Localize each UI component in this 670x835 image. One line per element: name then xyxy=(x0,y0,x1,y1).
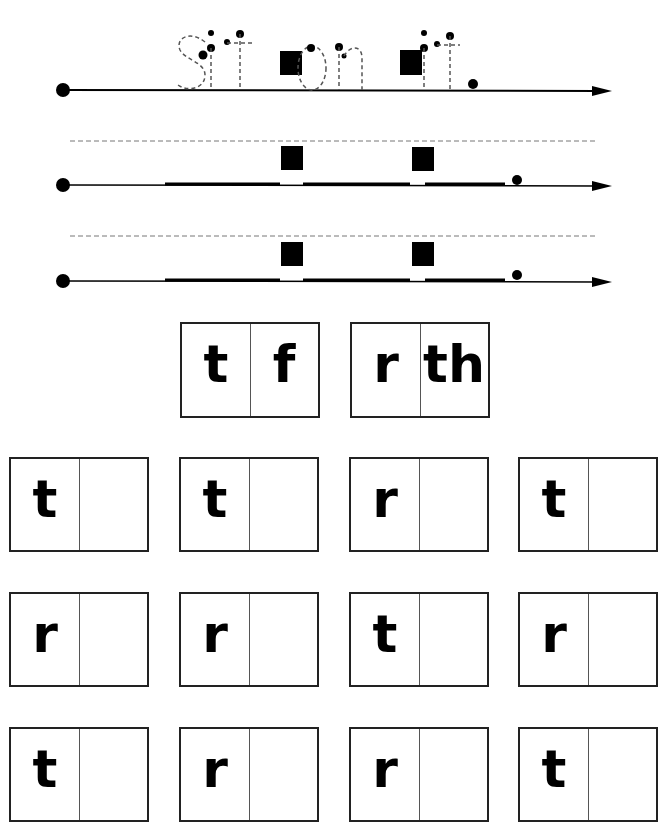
practice-box: t xyxy=(518,727,658,822)
writing-lines xyxy=(0,0,670,320)
onset-cell: t xyxy=(182,324,251,416)
answer-cell[interactable] xyxy=(249,459,317,550)
practice-box: r xyxy=(518,592,658,687)
onset-letter: t xyxy=(204,338,229,390)
word-family-box-2: r th xyxy=(350,322,490,418)
answer-cell[interactable] xyxy=(588,594,656,685)
practice-box: r xyxy=(349,727,489,822)
word-family-box-1: t f xyxy=(180,322,320,418)
onset-letter: t xyxy=(33,743,58,795)
practice-box: t xyxy=(179,457,319,552)
rime-letter: f xyxy=(273,338,296,390)
onset-letter: t xyxy=(373,608,398,660)
onset-cell: t xyxy=(11,729,80,820)
answer-cell[interactable] xyxy=(588,459,656,550)
answer-cell[interactable] xyxy=(249,594,317,685)
onset-cell: t xyxy=(351,594,420,685)
onset-letter: r xyxy=(202,743,228,795)
answer-cell[interactable] xyxy=(249,729,317,820)
onset-cell: r xyxy=(351,729,420,820)
answer-cell[interactable] xyxy=(419,729,487,820)
onset-letter: t xyxy=(542,743,567,795)
onset-letter: r xyxy=(32,608,58,660)
onset-cell: t xyxy=(520,459,589,550)
answer-cell[interactable] xyxy=(588,729,656,820)
onset-cell: r xyxy=(181,594,250,685)
practice-box: t xyxy=(518,457,658,552)
onset-letter: r xyxy=(541,608,567,660)
onset-cell: r xyxy=(520,594,589,685)
onset-cell: r xyxy=(351,459,420,550)
onset-cell: r xyxy=(352,324,421,416)
onset-cell: r xyxy=(181,729,250,820)
writing-line-2[interactable] xyxy=(56,141,612,192)
trace-line-1 xyxy=(56,30,612,97)
onset-letter: r xyxy=(202,608,228,660)
answer-cell[interactable] xyxy=(419,594,487,685)
practice-box: r xyxy=(9,592,149,687)
practice-box: r xyxy=(179,727,319,822)
onset-cell: t xyxy=(520,729,589,820)
onset-letter: t xyxy=(33,473,58,525)
answer-cell[interactable] xyxy=(419,459,487,550)
onset-letter: t xyxy=(203,473,228,525)
onset-letter: r xyxy=(373,338,399,390)
onset-letter: r xyxy=(372,743,398,795)
answer-cell[interactable] xyxy=(79,729,147,820)
onset-cell: t xyxy=(181,459,250,550)
onset-letter: r xyxy=(372,473,398,525)
rime-letter: th xyxy=(423,338,485,390)
practice-box: t xyxy=(349,592,489,687)
practice-box: r xyxy=(179,592,319,687)
rime-cell: th xyxy=(420,324,488,416)
onset-letter: t xyxy=(542,473,567,525)
onset-cell: r xyxy=(11,594,80,685)
writing-line-3[interactable] xyxy=(56,236,612,288)
practice-box: t xyxy=(9,727,149,822)
answer-cell[interactable] xyxy=(79,459,147,550)
practice-box: r xyxy=(349,457,489,552)
rime-cell: f xyxy=(250,324,318,416)
onset-cell: t xyxy=(11,459,80,550)
answer-cell[interactable] xyxy=(79,594,147,685)
practice-box: t xyxy=(9,457,149,552)
